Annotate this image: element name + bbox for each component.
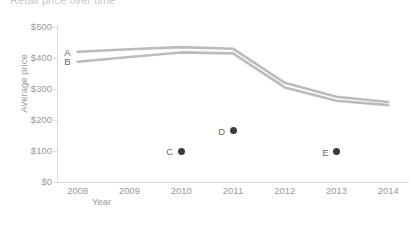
- data-point-label-c: C: [166, 146, 173, 157]
- series-line-a: [78, 47, 389, 102]
- series-lines: [0, 0, 414, 229]
- chart-container: Retail price over time Average price Yea…: [0, 0, 414, 229]
- data-point-label-e: E: [322, 146, 328, 157]
- data-point-c: [178, 148, 185, 155]
- data-point-d: [230, 127, 237, 134]
- series-label-b: B: [64, 56, 70, 67]
- data-point-label-d: D: [218, 125, 225, 136]
